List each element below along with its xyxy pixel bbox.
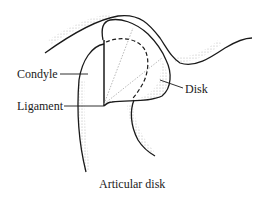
ligament-label: Ligament (17, 100, 63, 112)
capsule-outline (102, 20, 166, 60)
condyle-label: Condyle (17, 68, 58, 80)
disk-label: Disk (185, 83, 208, 95)
condyle-head-dashed (106, 39, 148, 99)
figure-caption: Articular disk (99, 178, 165, 190)
fossa-outline (45, 16, 252, 65)
